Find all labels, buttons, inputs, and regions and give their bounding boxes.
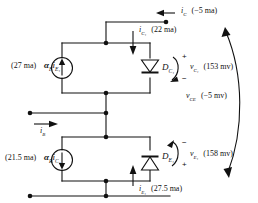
label-source-bottom-expression: αRiC₁ [44, 153, 61, 162]
current-source-bottom-arrow-head [59, 163, 65, 170]
label-ib: iB [40, 127, 45, 135]
label-ve1-plus: + [182, 161, 187, 169]
label-ic1: iC₁ (22 ma) [139, 26, 176, 34]
label-vc1-plus: + [182, 53, 187, 61]
label-ie1-subscript: E₁ [141, 190, 146, 195]
diode-bottom-triangle [142, 157, 159, 170]
arrow-ic1-head [130, 46, 137, 55]
label-vc1: vC₁ (153 mv) [190, 63, 233, 71]
label-diode-top: DC₁ [162, 63, 174, 72]
node-dot-base [104, 111, 109, 116]
label-ve1-value: (158 mv) [203, 149, 233, 158]
arrow-ve1-curve-head [167, 140, 174, 148]
label-vc1-subscript: C₁ [194, 68, 199, 73]
label-ic-value: (−5 ma) [192, 6, 218, 15]
label-ic1-value: (22 ma) [151, 25, 176, 34]
label-ve1: vE₁ (158 mv) [190, 150, 233, 158]
label-diode-bottom-subscript: E₁ [169, 157, 174, 163]
diode-top-triangle [142, 60, 159, 72]
label-vce-value: (−5 mv) [201, 91, 227, 100]
label-source-top-expression: αFiE₁ [44, 61, 60, 70]
arrow-ie1-head [130, 165, 137, 174]
circuit-schematic-canvas [0, 0, 258, 203]
label-ie1-value: (27.5 ma) [151, 184, 182, 193]
label-diode-bottom: DE₁ [162, 152, 174, 161]
label-source-top-value: (27 ma) [11, 62, 36, 70]
node-dot-emitter-rail [104, 194, 109, 199]
label-ie1-factor-subscript: E₁ [55, 66, 60, 72]
circuit-diagram-figure: iC (−5 ma) iC₁ (22 ma) (27 ma) αFiE₁ DC₁… [0, 0, 258, 203]
arrow-ic-head [156, 10, 164, 16]
terminal-collector [164, 20, 169, 25]
node-dot-emitter-block-bottom [104, 179, 109, 184]
node-dot-collector-block-top [104, 41, 109, 46]
label-source-bottom-value-text: (21.5 ma) [5, 153, 36, 162]
arrow-vce-head-bottom [224, 167, 233, 178]
label-vce: vCE (−5 mv) [186, 92, 227, 100]
label-vc1-value: (153 mv) [204, 62, 234, 71]
label-vce-subscript: CE [190, 97, 196, 102]
label-vc1-minus: − [182, 75, 187, 83]
label-ib-subscript: B [42, 132, 45, 137]
arrow-vce-head-top [222, 27, 231, 37]
label-source-top-value-text: (27 ma) [11, 61, 36, 70]
arrow-ib-head [49, 121, 58, 128]
label-source-bottom-value: (21.5 ma) [5, 154, 36, 162]
label-diode-top-subscript: C₁ [169, 68, 175, 74]
terminal-emitter [28, 194, 33, 199]
terminal-base [28, 111, 33, 116]
label-ie1: iE₁ (27.5 ma) [139, 185, 182, 193]
label-ve1-minus: − [182, 139, 187, 147]
label-ic1-factor-subscript: C₁ [55, 158, 61, 164]
node-dot-emitter-block-top [104, 135, 109, 140]
label-ic-subscript: C [183, 12, 186, 17]
label-ic: iC (−5 ma) [181, 7, 217, 15]
label-ve1-subscript: E₁ [194, 155, 199, 160]
label-ic1-subscript: C₁ [141, 31, 146, 36]
node-dot-collector-block-bottom [104, 91, 109, 96]
